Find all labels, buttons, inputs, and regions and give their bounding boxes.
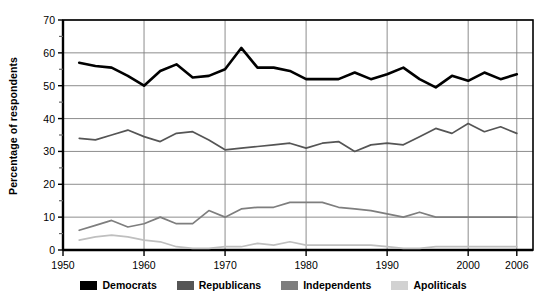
legend-swatch-icon (80, 281, 97, 290)
legend-label: Republicans (199, 279, 261, 291)
x-tick-label: 2000 (456, 259, 480, 271)
y-tick-label: 20 (43, 178, 55, 190)
legend-swatch-icon (177, 281, 194, 290)
legend-swatch-icon (281, 281, 298, 290)
legend-label: Apoliticals (413, 279, 466, 291)
x-tick-label: 2006 (505, 259, 529, 271)
legend-item-independents[interactable]: Independents (281, 279, 371, 291)
chart-legend: DemocratsRepublicansIndependentsApolitic… (0, 275, 547, 295)
y-tick-label: 70 (43, 14, 55, 26)
x-tick-label: 1970 (213, 259, 237, 271)
legend-swatch-icon (391, 281, 408, 290)
legend-label: Independents (303, 279, 371, 291)
y-tick-label: 60 (43, 47, 55, 59)
y-tick-label: 0 (49, 244, 55, 256)
y-tick-label: 10 (43, 211, 55, 223)
legend-item-democrats[interactable]: Democrats (80, 279, 156, 291)
plot-area: 0102030405060701950196019701980199020002… (0, 0, 547, 275)
legend-item-republicans[interactable]: Republicans (177, 279, 261, 291)
legend-label: Democrats (102, 279, 156, 291)
x-tick-label: 1960 (132, 259, 156, 271)
x-tick-label: 1980 (294, 259, 318, 271)
chart-figure: Percentage of respondents 01020304050607… (0, 0, 547, 304)
x-tick-label: 1990 (375, 259, 399, 271)
y-tick-label: 50 (43, 80, 55, 92)
y-tick-label: 40 (43, 113, 55, 125)
y-tick-label: 30 (43, 145, 55, 157)
legend-item-apoliticals[interactable]: Apoliticals (391, 279, 466, 291)
plot-background (63, 20, 533, 250)
x-tick-label: 1950 (51, 259, 75, 271)
